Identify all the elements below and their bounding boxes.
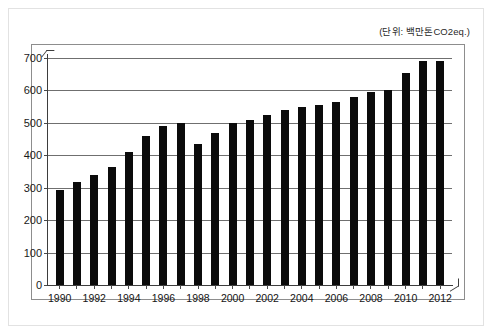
y-tick-label: 200 [24,214,42,226]
x-tick-mark [111,285,112,289]
bar [90,175,98,285]
x-tick-mark [267,285,268,289]
bar [384,90,392,285]
bar [56,190,64,285]
bar [332,102,340,285]
x-label-slot: 1998 [189,292,206,306]
bar [315,105,323,285]
x-tick-slot [172,285,189,290]
x-tick-mark [198,285,199,289]
x-tick-mark [128,285,129,289]
bar-slot [397,58,414,285]
bar-slot [68,58,85,285]
x-label-slot: 2008 [362,292,379,306]
bar [194,144,202,285]
y-tick-label: 500 [24,117,42,129]
bar-slot [345,58,362,285]
bar-slot [172,58,189,285]
bar-slot [380,58,397,285]
x-tick-mark [319,285,320,289]
x-tick-slot [345,285,362,290]
bar-slot [293,58,310,285]
bar-slot [103,58,120,285]
x-tick-slot [432,285,449,290]
x-label-slot: 1994 [120,292,137,306]
bar-slot [328,58,345,285]
y-tick-label: 300 [24,182,42,194]
x-tick-mark [353,285,354,289]
x-tick-mark [440,285,441,289]
x-tick-slot [86,285,103,290]
y-tick-label: 100 [24,247,42,259]
bar-slot [120,58,137,285]
x-label-slot: 2004 [293,292,310,306]
chart-page: (단위: 백만톤CO2eq.) 0100200300400500600700 1… [0,0,492,334]
bar [108,167,116,285]
bar [177,123,185,285]
bar [73,182,81,285]
x-tick-mark [215,285,216,289]
bar [159,126,167,285]
x-tick-slot [51,285,68,290]
bar [211,133,219,285]
y-tick-label: 0 [36,279,42,291]
x-label-slot: 1992 [86,292,103,306]
x-tick-slot [276,285,293,290]
plot-area: 0100200300400500600700 19901992199419961… [48,58,452,285]
x-tick-mark [249,285,250,289]
x-tick-mark [336,285,337,289]
x-tick-mark [422,285,423,289]
bar-slot [432,58,449,285]
bar-slot [207,58,224,285]
bar-slot [86,58,103,285]
x-tick-slot [241,285,258,290]
bar-slot [259,58,276,285]
bar-series [48,58,452,285]
x-tick-slot [414,285,431,290]
bar [350,97,358,285]
bar [402,73,410,285]
bar [125,152,133,285]
x-axis-ticks [48,285,452,290]
x-tick-mark [180,285,181,289]
x-tick-mark [76,285,77,289]
x-tick-slot [155,285,172,290]
x-tick-label: 2012 [428,292,451,304]
y-tick-label: 700 [24,52,42,64]
x-tick-mark [94,285,95,289]
x-tick-slot [68,285,85,290]
x-label-slot: 2002 [259,292,276,306]
x-tick-mark [59,285,60,289]
x-tick-mark [405,285,406,289]
bar-slot [51,58,68,285]
x-tick-slot [189,285,206,290]
x-tick-slot [328,285,345,290]
bar-slot [137,58,154,285]
x-tick-mark [146,285,147,289]
bar-slot [224,58,241,285]
x-label-slot: 2006 [328,292,345,306]
y-tick-label: 600 [24,84,42,96]
bar-slot [276,58,293,285]
x-tick-slot [397,285,414,290]
x-label-slot: 1990 [51,292,68,306]
x-tick-mark [232,285,233,289]
x-tick-slot [310,285,327,290]
x-tick-slot [120,285,137,290]
x-tick-mark [301,285,302,289]
bar [142,136,150,285]
x-tick-slot [293,285,310,290]
x-tick-slot [224,285,241,290]
y-tick-label: 400 [24,149,42,161]
x-tick-slot [362,285,379,290]
unit-caption: (단위: 백만톤CO2eq.) [379,24,470,38]
bar-slot [362,58,379,285]
x-tick-slot [380,285,397,290]
x-tick-slot [207,285,224,290]
x-label-slot: 2000 [224,292,241,306]
bar [246,120,254,285]
bar-slot [241,58,258,285]
bar [229,123,237,285]
bar [367,92,375,285]
bar-slot [189,58,206,285]
